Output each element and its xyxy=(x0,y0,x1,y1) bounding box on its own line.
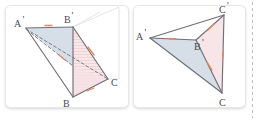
label-A-prime-mark: ' xyxy=(23,14,25,25)
label-C: C xyxy=(219,97,226,108)
label-A-prime-mark: ' xyxy=(145,27,147,38)
label-B-prime: B xyxy=(64,14,71,25)
label-A-prime: A xyxy=(14,18,22,29)
label-B-prime: B xyxy=(194,41,201,52)
left-figure-group: A ' B ' B C xyxy=(6,6,129,110)
right-figure-group: A ' B ' C ' C xyxy=(134,0,246,108)
label-C-prime-mark: ' xyxy=(227,0,229,11)
label-A-prime: A xyxy=(136,31,144,42)
label-B-prime-mark: ' xyxy=(72,10,74,21)
geometry-illustration: A ' B ' B C xyxy=(0,0,258,120)
label-B: B xyxy=(63,98,70,109)
label-C-prime: C xyxy=(219,4,226,15)
label-C: C xyxy=(111,77,118,88)
figure-canvas: A ' B ' B C xyxy=(0,0,258,120)
label-B-prime-mark: ' xyxy=(202,37,204,48)
